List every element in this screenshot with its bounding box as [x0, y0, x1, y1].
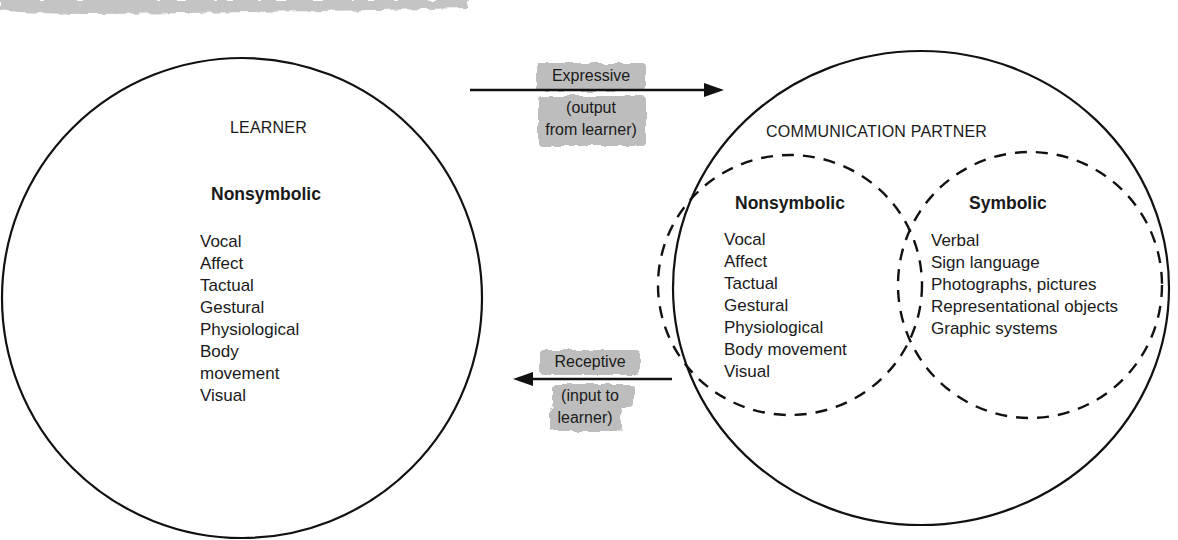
- expressive-label: Expressive: [536, 65, 646, 87]
- top-highlight-band: [0, 0, 470, 14]
- partner-nonsymbolic-list: Vocal Affect Tactual Gestural Physiologi…: [724, 229, 847, 383]
- learner-item: movement: [200, 363, 299, 385]
- learner-item: Gestural: [200, 297, 299, 319]
- learner-item: Physiological: [200, 319, 299, 341]
- partner-nonsymbolic-category: Nonsymbolic: [735, 192, 845, 214]
- nonsymbolic-item: Physiological: [724, 317, 847, 339]
- partner-title: COMMUNICATION PARTNER: [766, 121, 987, 143]
- expressive-arrowhead-icon: [704, 83, 724, 97]
- learner-item: Body: [200, 341, 299, 363]
- expressive-sub1: (output: [536, 97, 646, 119]
- learner-item: Visual: [200, 385, 299, 407]
- symbolic-item: Sign language: [931, 252, 1118, 274]
- nonsymbolic-item: Tactual: [724, 273, 847, 295]
- receptive-arrowhead-icon: [513, 372, 533, 386]
- learner-title: LEARNER: [230, 117, 307, 139]
- receptive-sub1: (input to: [545, 385, 635, 407]
- nonsymbolic-item: Gestural: [724, 295, 847, 317]
- symbolic-item: Photographs, pictures: [931, 274, 1118, 296]
- learner-category: Nonsymbolic: [211, 183, 321, 205]
- receptive-label: Receptive: [540, 351, 640, 373]
- nonsymbolic-item: Visual: [724, 361, 847, 383]
- symbolic-item: Graphic systems: [931, 318, 1118, 340]
- symbolic-item: Verbal: [931, 230, 1118, 252]
- expressive-sub2: from learner): [536, 119, 646, 141]
- learner-item: Vocal: [200, 231, 299, 253]
- nonsymbolic-item: Vocal: [724, 229, 847, 251]
- learner-item: Tactual: [200, 275, 299, 297]
- learner-item: Affect: [200, 253, 299, 275]
- receptive-sub2: learner): [545, 407, 625, 429]
- learner-list: Vocal Affect Tactual Gestural Physiologi…: [200, 231, 299, 407]
- partner-symbolic-list: Verbal Sign language Photographs, pictur…: [931, 230, 1118, 340]
- nonsymbolic-item: Affect: [724, 251, 847, 273]
- partner-symbolic-category: Symbolic: [969, 192, 1047, 214]
- symbolic-item: Representational objects: [931, 296, 1118, 318]
- nonsymbolic-item: Body movement: [724, 339, 847, 361]
